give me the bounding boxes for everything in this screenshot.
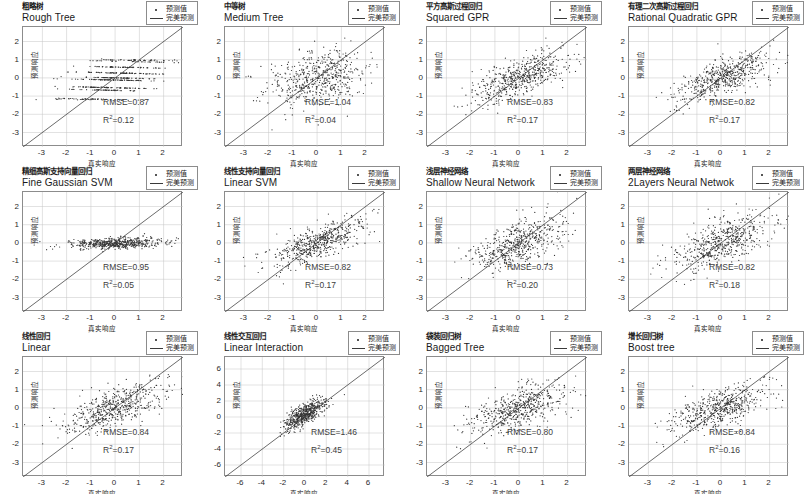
y-axis-tick: 2: [15, 366, 19, 375]
x-axis-tick: -3: [644, 478, 651, 487]
x-axis-tick: 0: [516, 313, 520, 322]
panel-title-en: Rational Quadratic GPR: [628, 12, 737, 23]
y-axis-tick: -4: [214, 444, 221, 453]
x-axis-tick: 1: [136, 478, 140, 487]
y-axis-tick: 0: [15, 237, 19, 246]
metrics: RMSE=0.73R2=0.20: [507, 260, 553, 293]
panel-title-cn: 平方高斯过程回归: [426, 1, 489, 12]
metrics: RMSE=0.80R2=0.17: [507, 425, 553, 458]
metrics: RMSE=0.83R2=0.17: [507, 95, 553, 128]
y-axis-tick: 0: [621, 72, 625, 81]
x-axis-tick: 1: [540, 313, 544, 322]
legend-label: 预测值: [570, 4, 591, 13]
line-marker-icon: [351, 343, 365, 352]
legend: 预测值完美预测: [348, 331, 400, 355]
y-axis-label: 预测响应: [433, 365, 443, 425]
panel-title-en: Linear Interaction: [224, 342, 303, 353]
legend-item-perfect: 完美预测: [553, 13, 598, 22]
y-axis-tick: -2: [416, 109, 423, 118]
y-axis-tick: 1: [15, 384, 19, 393]
plot-area: RMSE=0.95R2=0.05-3-2-1012-3-2-1012预测响应真实…: [22, 191, 182, 311]
legend: 预测值完美预测: [146, 331, 198, 355]
y-axis-tick: 0: [217, 72, 221, 81]
line-marker-icon: [351, 178, 365, 187]
axes: RMSE=0.83R2=0.17: [426, 26, 586, 146]
x-axis-tick: -6: [236, 478, 243, 487]
panel-fine-gaussian-svm: 精细高斯支持向量回归Fine Gaussian SVM预测值完美预测RMSE=0…: [0, 165, 202, 330]
panel-boost-tree: 增长回归树Boost tree预测值完美预测RMSE=0.84R2=0.16-3…: [606, 330, 808, 494]
y-axis-label: 预测响应: [635, 200, 645, 260]
y-axis-label: 预测响应: [231, 365, 241, 425]
legend-item-predicted: 预测值: [755, 334, 800, 343]
legend-label: 完美预测: [166, 178, 194, 187]
x-axis-tick: 1: [742, 478, 746, 487]
y-axis-tick: -1: [12, 91, 19, 100]
x-axis-tick: 0: [302, 478, 306, 487]
y-axis-tick: 2: [621, 201, 625, 210]
x-axis-tick: 1: [540, 148, 544, 157]
metrics: RMSE=0.82R2=0.18: [709, 260, 755, 293]
dot-marker-icon: [351, 4, 365, 13]
dot-marker-icon: [351, 334, 365, 343]
x-axis-tick: -1: [692, 148, 699, 157]
x-axis-tick: -3: [644, 148, 651, 157]
r2-value: R2=0.16: [709, 440, 755, 458]
r2-value: R2=0.45: [311, 440, 357, 458]
x-axis-tick: -3: [38, 478, 45, 487]
plot-area: RMSE=0.82R2=0.18-3-2-1012-3-2-1012预测响应真实…: [628, 191, 788, 311]
panel-linear-interaction: 线性交互回归Linear Interaction预测值完美预测RMSE=1.46…: [202, 330, 404, 494]
legend-label: 完美预测: [772, 178, 800, 187]
y-axis-label: 预测响应: [29, 200, 39, 260]
panel-linear: 线性回归Linear预测值完美预测RMSE=0.84R2=0.17-3-2-10…: [0, 330, 202, 494]
legend-item-predicted: 预测值: [553, 4, 598, 13]
x-axis-tick: 0: [718, 313, 722, 322]
legend-label: 预测值: [368, 4, 389, 13]
x-axis-tick: 2: [160, 148, 164, 157]
x-axis-tick: 2: [766, 148, 770, 157]
panel-title-en: Fine Gaussian SVM: [22, 177, 113, 188]
x-axis-tick: -3: [644, 313, 651, 322]
y-axis-tick: 2: [15, 201, 19, 210]
y-axis-tick: 1: [217, 219, 221, 228]
panel-title-cn: 有理二次高斯过程回归: [628, 1, 737, 12]
x-axis-tick: 0: [112, 148, 116, 157]
x-axis-tick: -3: [240, 313, 247, 322]
axes: RMSE=0.80R2=0.17: [426, 356, 586, 476]
y-axis-tick: -1: [214, 91, 221, 100]
y-axis-tick: 2: [419, 201, 423, 210]
y-axis-tick: 0: [621, 237, 625, 246]
panel-title: 粗略树Rough Tree: [22, 1, 75, 23]
x-axis-tick: 2: [362, 313, 366, 322]
x-axis-tick: 1: [136, 313, 140, 322]
r2-value: R2=0.17: [103, 440, 149, 458]
r2-value: R2=0.18: [709, 275, 755, 293]
y-axis-tick: 1: [419, 219, 423, 228]
rmse-value: RMSE=1.46: [311, 425, 357, 440]
legend-label: 完美预测: [368, 343, 396, 352]
legend-item-perfect: 完美预测: [351, 343, 396, 352]
y-axis-tick: 0: [621, 402, 625, 411]
scatter-canvas: [225, 357, 385, 477]
panel-title: 精细高斯支持向量回归Fine Gaussian SVM: [22, 166, 113, 188]
x-axis-tick: -1: [692, 478, 699, 487]
rmse-value: RMSE=0.82: [709, 95, 755, 110]
panel-title-en: Bagged Tree: [426, 342, 484, 353]
plot-area: RMSE=0.80R2=0.17-3-2-1012-3-2-1012预测响应真实…: [426, 356, 586, 476]
panel-title: 浅层神经网络Shallow Neural Network: [426, 166, 535, 188]
legend-label: 预测值: [166, 334, 187, 343]
panel-title: 线性支持向量回归Linear SVM: [224, 166, 280, 188]
x-axis-tick: 1: [742, 313, 746, 322]
line-marker-icon: [553, 13, 567, 22]
y-axis-tick: -3: [214, 292, 221, 301]
y-axis-tick: 0: [15, 402, 19, 411]
metrics: RMSE=0.82R2=0.17: [709, 95, 755, 128]
line-marker-icon: [755, 13, 769, 22]
y-axis-tick: 0: [217, 412, 221, 421]
plot-area: RMSE=0.82R2=0.17-3-2-1012-3-2-1012预测响应真实…: [628, 26, 788, 146]
y-axis-tick: 2: [621, 366, 625, 375]
y-axis-tick: 0: [15, 72, 19, 81]
y-axis-tick: -1: [416, 256, 423, 265]
rmse-value: RMSE=0.84: [709, 425, 755, 440]
x-axis-tick: 2: [564, 478, 568, 487]
legend: 预测值完美预测: [348, 166, 400, 190]
